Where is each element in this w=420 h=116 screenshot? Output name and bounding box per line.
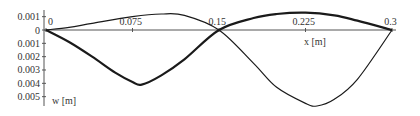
- x-tick-label: 0.225: [293, 16, 316, 27]
- x-tick-label: 0: [48, 16, 53, 27]
- y-tick-label: 0.003: [18, 64, 41, 75]
- y-tick-label: 0.001: [18, 11, 41, 22]
- y-tick-label: 0.002: [18, 51, 41, 62]
- y-tick-label: 0.001: [18, 38, 41, 49]
- y-axis-title: w [m]: [52, 95, 76, 106]
- y-axis: 0.00100.0010.0020.0030.0040.005: [18, 10, 47, 106]
- x-tick-label: 0.3: [384, 16, 397, 27]
- y-tick-label: 0.005: [18, 91, 41, 102]
- x-axis-title: x [m]: [304, 36, 326, 47]
- deflection-chart: 0.00100.0010.0020.0030.0040.005 00.0750.…: [0, 0, 420, 116]
- y-tick-label: 0.004: [18, 78, 41, 89]
- y-tick-label: 0: [35, 25, 40, 36]
